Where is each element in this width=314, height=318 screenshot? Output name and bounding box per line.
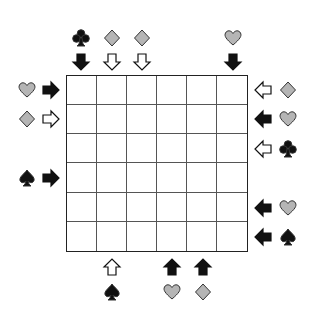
diamond-icon	[101, 27, 123, 49]
grid-cell-r0c1[interactable]	[97, 76, 127, 105]
grid-cell-r5c3[interactable]	[157, 222, 187, 251]
grid-cell-r3c0[interactable]	[67, 163, 97, 192]
grid-cell-r0c3[interactable]	[157, 76, 187, 105]
grid-cell-r5c1[interactable]	[97, 222, 127, 251]
spade-icon	[277, 226, 299, 248]
grid-cell-r4c3[interactable]	[157, 193, 187, 222]
spade-icon	[101, 281, 123, 303]
grid-cell-r3c3[interactable]	[157, 163, 187, 192]
arrow-left-icon	[252, 108, 274, 130]
grid-cell-r0c2[interactable]	[127, 76, 157, 105]
grid-cell-r5c4[interactable]	[187, 222, 217, 251]
grid-cell-r2c4[interactable]	[187, 134, 217, 163]
grid-cell-r5c0[interactable]	[67, 222, 97, 251]
grid-cell-r3c2[interactable]	[127, 163, 157, 192]
grid-cell-r4c1[interactable]	[97, 193, 127, 222]
grid-cell-r1c1[interactable]	[97, 105, 127, 134]
grid-cell-r2c5[interactable]	[217, 134, 247, 163]
arrow-right-icon	[40, 167, 62, 189]
arrow-left-icon	[252, 197, 274, 219]
grid-cell-r4c0[interactable]	[67, 193, 97, 222]
grid-cell-r2c2[interactable]	[127, 134, 157, 163]
grid-cell-r5c2[interactable]	[127, 222, 157, 251]
grid-cell-r5c5[interactable]	[217, 222, 247, 251]
grid-cell-r2c1[interactable]	[97, 134, 127, 163]
arrow-down-icon	[101, 51, 123, 73]
grid-cell-r3c4[interactable]	[187, 163, 217, 192]
diamond-icon	[277, 79, 299, 101]
grid-cell-r1c5[interactable]	[217, 105, 247, 134]
grid-cell-r1c4[interactable]	[187, 105, 217, 134]
grid-cell-r0c0[interactable]	[67, 76, 97, 105]
arrow-down-icon	[70, 51, 92, 73]
puzzle-grid	[66, 75, 248, 252]
grid-cell-r1c0[interactable]	[67, 105, 97, 134]
heart-icon	[277, 197, 299, 219]
grid-cell-r2c3[interactable]	[157, 134, 187, 163]
grid-cell-r3c1[interactable]	[97, 163, 127, 192]
grid-cell-r4c2[interactable]	[127, 193, 157, 222]
arrow-right-icon	[40, 108, 62, 130]
arrow-down-icon	[131, 51, 153, 73]
arrow-left-icon	[252, 79, 274, 101]
grid-cell-r1c2[interactable]	[127, 105, 157, 134]
arrow-down-icon	[222, 51, 244, 73]
grid-cell-r0c4[interactable]	[187, 76, 217, 105]
arrow-up-icon	[161, 256, 183, 278]
arrow-up-icon	[192, 256, 214, 278]
arrow-left-icon	[252, 138, 274, 160]
club-icon	[277, 138, 299, 160]
diamond-icon	[131, 27, 153, 49]
puzzle-board	[0, 0, 314, 318]
grid-cell-r3c5[interactable]	[217, 163, 247, 192]
grid-cell-r0c5[interactable]	[217, 76, 247, 105]
spade-icon	[16, 167, 38, 189]
heart-icon	[277, 108, 299, 130]
grid-cell-r4c4[interactable]	[187, 193, 217, 222]
diamond-icon	[16, 108, 38, 130]
grid-cell-r2c0[interactable]	[67, 134, 97, 163]
diamond-icon	[192, 281, 214, 303]
arrow-left-icon	[252, 226, 274, 248]
grid-cell-r1c3[interactable]	[157, 105, 187, 134]
grid-cell-r4c5[interactable]	[217, 193, 247, 222]
arrow-up-icon	[101, 256, 123, 278]
arrow-right-icon	[40, 79, 62, 101]
heart-icon	[161, 281, 183, 303]
club-icon	[70, 27, 92, 49]
heart-icon	[222, 27, 244, 49]
heart-icon	[16, 79, 38, 101]
